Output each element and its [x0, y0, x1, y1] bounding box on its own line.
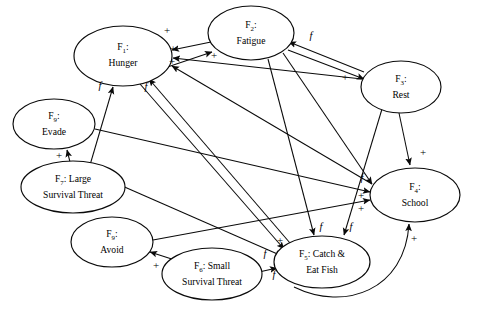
edge-f1-f5	[140, 84, 284, 249]
node-f1-ellipse[interactable]	[74, 26, 172, 86]
node-f9-evade-label-line2: Evade	[42, 126, 66, 137]
node-f6-label-line2: Survival Threat	[182, 276, 242, 287]
node-f9-evade-ellipse[interactable]	[13, 99, 95, 149]
edge-f2-f4	[283, 53, 372, 184]
edge-label-f3-f4-8: +	[420, 146, 426, 158]
network-diagram: F1: Hunger F2: Fatigue F3: Rest F4: Scho…	[0, 0, 479, 319]
node-f1-label-line2: Hunger	[109, 57, 139, 68]
edge-label-f7-f9_evade-18: +	[56, 149, 62, 161]
edge-label-f4-f1-2: +	[169, 55, 175, 67]
edge-f9avoid-f4	[153, 200, 370, 240]
node-f3-label-line2: Rest	[392, 89, 409, 100]
node-f7[interactable]: F7: Large Survival Threat	[21, 161, 125, 213]
node-f9-avoid-label-line2: Avoid	[100, 244, 123, 255]
edge-label-f9_evade-f4-10: +	[358, 189, 364, 201]
edge-label-f3-f5-14: f	[350, 221, 355, 232]
edge-f9evade-f4	[95, 129, 370, 192]
edge-label-f3-f1-1: +	[170, 42, 176, 54]
node-f9-evade[interactable]: F9: Evade	[13, 99, 95, 149]
edge-f2-f1	[172, 42, 211, 50]
node-f2-ellipse[interactable]	[208, 6, 294, 60]
node-f2-label-line2: Fatigue	[237, 35, 266, 46]
edge-f3-f1	[173, 58, 362, 79]
edge-f4-f1	[172, 66, 372, 184]
edge-label-f6-f9_avoid-19: +	[153, 259, 159, 271]
edge-label-f9_avoid-f4-11: +	[358, 202, 364, 214]
edge-f3-f2	[289, 42, 364, 72]
node-f4-label-line2: School	[402, 197, 429, 208]
node-f5[interactable]: F5: Catch & Eat Fish	[274, 236, 370, 288]
node-f6-ellipse[interactable]	[162, 248, 262, 300]
node-f3-ellipse[interactable]	[361, 61, 441, 113]
edge-label-f2-f5-13: f	[320, 221, 325, 232]
node-f6[interactable]: F6: Small Survival Threat	[162, 248, 262, 300]
node-f1[interactable]: F1: Hunger	[74, 26, 172, 86]
edge-f2-f5	[268, 59, 314, 235]
node-f4-ellipse[interactable]	[370, 168, 460, 222]
edge-label-f3-f2-6: f	[310, 30, 315, 41]
edge-f7-f9evade	[67, 150, 70, 162]
node-f9-avoid-ellipse[interactable]	[71, 217, 153, 267]
node-f2[interactable]: F2: Fatigue	[208, 6, 294, 60]
edge-label-f2-f3-7: +	[342, 71, 348, 83]
node-f4[interactable]: F4: School	[370, 168, 460, 222]
diagram-canvas: F1: Hunger F2: Fatigue F3: Rest F4: Scho…	[0, 0, 479, 319]
node-f3[interactable]: F3: Rest	[361, 61, 441, 113]
node-f5-label-line2: Eat Fish	[306, 264, 338, 275]
edge-label-f2-f1-0: +	[164, 24, 170, 36]
node-f7-label-line2: Survival Threat	[43, 189, 103, 200]
edge-label-f5-f2-5: +	[211, 49, 217, 61]
edge-label-f1-f5-15: +	[277, 234, 283, 246]
nodes-layer: F1: Hunger F2: Fatigue F3: Rest F4: Scho…	[13, 6, 460, 300]
node-f7-ellipse[interactable]	[21, 161, 125, 213]
edge-label-f5-f1-3: f	[145, 81, 150, 92]
node-f5-ellipse[interactable]	[274, 236, 370, 288]
edge-label-f5-f4-12: +	[411, 232, 417, 244]
node-f9-avoid[interactable]: F9: Avoid	[71, 217, 153, 267]
edge-f3-f4	[399, 113, 410, 165]
